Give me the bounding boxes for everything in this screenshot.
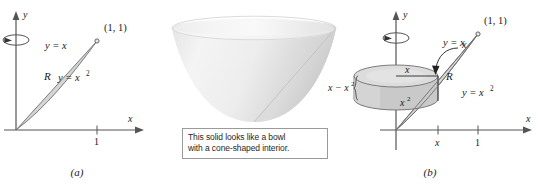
shell-top-value-label: x — [404, 64, 410, 75]
callout-line-1: This solid looks like a bowl — [188, 132, 322, 143]
panel-middle: This solid looks like a bowl with a cone… — [168, 0, 350, 184]
svg-text:x − x: x − x — [327, 82, 349, 93]
y-axis-label: y — [402, 9, 408, 20]
bowl-rim-band — [174, 20, 334, 36]
curve-label-y-equals-x: y = x — [44, 40, 67, 51]
region-R-label: R — [43, 70, 51, 82]
svg-text:2: 2 — [407, 95, 411, 103]
x-axis-label: x — [525, 113, 531, 124]
solid-description-callout: This solid looks like a bowl with a cone… — [182, 128, 328, 159]
region-R-label: R — [445, 70, 453, 82]
panel-a-graphic: y x 1 (1, 1) y = x y — [0, 0, 170, 184]
y-axis-label: y — [22, 9, 28, 20]
panel-a: y x 1 (1, 1) y = x y — [0, 0, 170, 184]
shell-height-label: x − x 2 — [327, 80, 355, 93]
callout-line-2: with a cone-shaped interior. — [188, 143, 322, 154]
panel-b-caption: (b) — [424, 166, 437, 179]
curve-label-y-equals-x-squared: y = x 2 — [461, 85, 494, 98]
x-tick-1-label: 1 — [94, 136, 99, 147]
x-tick-var-label: x — [434, 137, 440, 148]
svg-text:2: 2 — [490, 85, 494, 93]
curve-label-y-equals-x: y = x — [442, 37, 465, 48]
svg-text:2: 2 — [351, 80, 355, 88]
region-R-shape — [16, 41, 97, 130]
point-1-1-marker — [95, 39, 99, 43]
point-1-1-label: (1, 1) — [484, 15, 507, 27]
shell-method-figure: y x 1 (1, 1) y = x y — [0, 0, 536, 184]
panel-a-caption: (a) — [71, 166, 84, 179]
svg-text:2: 2 — [86, 70, 90, 78]
point-1-1-marker — [476, 32, 480, 36]
x-tick-1-label: 1 — [475, 137, 480, 148]
panel-b-graphic: x y x 1 — [350, 0, 536, 184]
svg-text:y = x: y = x — [461, 87, 484, 98]
svg-text:x: x — [399, 97, 405, 108]
x-axis — [4, 127, 144, 134]
point-1-1-label: (1, 1) — [104, 22, 127, 34]
y-axis — [13, 11, 20, 130]
panel-b: x y x 1 — [350, 0, 536, 184]
svg-text:y = x: y = x — [57, 72, 80, 83]
curve-label-y-equals-x-squared: y = x 2 — [57, 70, 90, 83]
x-axis-label: x — [127, 113, 133, 124]
x-axis — [380, 127, 532, 134]
